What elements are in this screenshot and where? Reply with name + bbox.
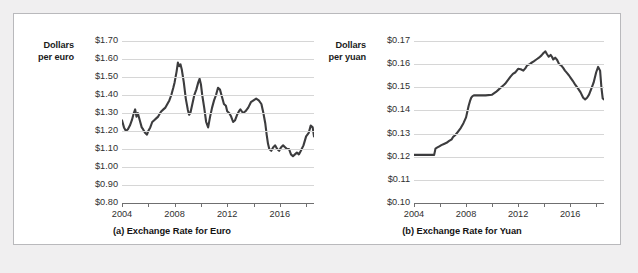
ytick-label: $0.16 [370, 59, 410, 68]
gridline [122, 131, 314, 132]
xtick-label: 2016 [260, 209, 300, 219]
ytick-label: $0.90 [78, 180, 118, 189]
yuan-caption: (b) Exchange Rate for Yuan [312, 226, 612, 236]
yuan-ytick-labels: $0.10$0.11$0.12$0.13$0.14$0.15$0.16$0.17 [370, 14, 410, 214]
xtick-label: 2008 [155, 209, 195, 219]
ytick-label: $1.60 [78, 54, 118, 63]
gridline [122, 41, 314, 42]
yuan-series-path [414, 51, 604, 154]
gridline [414, 87, 604, 88]
gridline [122, 185, 314, 186]
ytick-label: $0.11 [370, 175, 410, 184]
figure-root: Dollars per euro $0.80$0.90$1.00$1.10$1.… [0, 0, 638, 273]
gridline [122, 113, 314, 114]
gridline [122, 167, 314, 168]
gridline [122, 149, 314, 150]
x-tickmark [466, 203, 467, 207]
euro-plot-area [122, 41, 314, 203]
ytick-label: $0.14 [370, 105, 410, 114]
gridline [414, 180, 604, 181]
x-tickmark [518, 203, 519, 207]
chart-euro: Dollars per euro $0.80$0.90$1.00$1.10$1.… [22, 14, 322, 246]
xtick-label: 2008 [446, 209, 486, 219]
euro-ytick-labels: $0.80$0.90$1.00$1.10$1.20$1.30$1.40$1.50… [78, 14, 118, 214]
euro-caption: (a) Exchange Rate for Euro [22, 226, 322, 236]
ytick-label: $0.15 [370, 82, 410, 91]
x-tickmark [492, 203, 493, 207]
x-tickmark [122, 203, 123, 207]
xtick-label: 2012 [498, 209, 538, 219]
ytick-label: $1.20 [78, 126, 118, 135]
ytick-label: $1.00 [78, 162, 118, 171]
x-tickmark [201, 203, 202, 207]
yuan-plot-area [414, 41, 604, 203]
gridline [414, 64, 604, 65]
ytick-label: $0.12 [370, 152, 410, 161]
figure-panel: Dollars per euro $0.80$0.90$1.00$1.10$1.… [13, 13, 621, 245]
yuan-axis-title-line1: Dollars [312, 40, 366, 52]
gridline [414, 41, 604, 42]
x-tickmark [596, 203, 597, 207]
gridline [414, 134, 604, 135]
xtick-label: 2004 [394, 209, 434, 219]
ytick-label: $0.13 [370, 129, 410, 138]
x-tickmark [544, 203, 545, 207]
x-tickmark [148, 203, 149, 207]
yuan-axis-title: Dollars per yuan [312, 40, 366, 63]
x-tickmark [570, 203, 571, 207]
gridline [122, 77, 314, 78]
gridline [122, 59, 314, 60]
x-tickmark [175, 203, 176, 207]
ytick-label: $1.40 [78, 90, 118, 99]
ytick-label: $0.10 [370, 198, 410, 207]
ytick-label: $1.70 [78, 36, 118, 45]
x-tickmark [306, 203, 307, 207]
euro-line-chart [122, 41, 314, 203]
euro-x-axis-line [122, 203, 314, 204]
ytick-label: $1.10 [78, 144, 118, 153]
euro-axis-title: Dollars per euro [22, 40, 74, 63]
ytick-label: $1.50 [78, 72, 118, 81]
x-tickmark [227, 203, 228, 207]
x-tickmark [414, 203, 415, 207]
ytick-label: $0.80 [78, 198, 118, 207]
xtick-label: 2016 [550, 209, 590, 219]
gridline [122, 95, 314, 96]
chart-yuan: Dollars per yuan $0.10$0.11$0.12$0.13$0.… [312, 14, 612, 246]
gridline [414, 157, 604, 158]
ytick-label: $0.17 [370, 36, 410, 45]
gridline [414, 110, 604, 111]
ytick-label: $1.30 [78, 108, 118, 117]
yuan-line-chart [414, 41, 604, 203]
x-tickmark [254, 203, 255, 207]
x-tickmark [440, 203, 441, 207]
euro-axis-title-line1: Dollars [22, 40, 74, 52]
xtick-label: 2004 [102, 209, 142, 219]
x-tickmark [280, 203, 281, 207]
yuan-axis-title-line2: per yuan [312, 52, 366, 64]
xtick-label: 2012 [207, 209, 247, 219]
euro-axis-title-line2: per euro [22, 52, 74, 64]
yuan-x-axis-line [414, 203, 604, 204]
